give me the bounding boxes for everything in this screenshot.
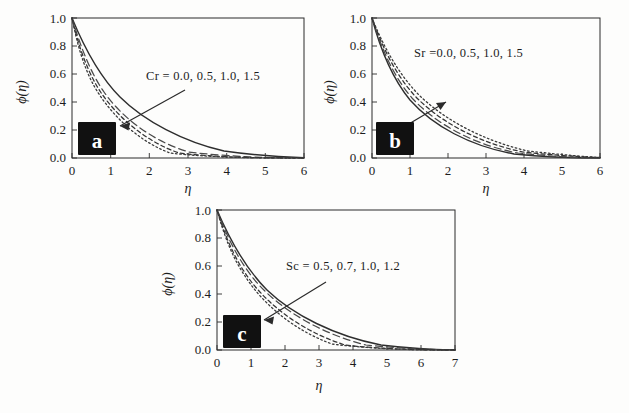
x-tick-label: 7	[452, 355, 459, 370]
panel-b-y-tick-labels: 0.0 0.2 0.4 0.6 0.8 1.0	[350, 11, 367, 165]
panel-c-y-axis-title: ϕ(η)	[160, 272, 176, 296]
x-tick-label: 4	[350, 355, 357, 370]
panel-a-y-axis-title: ϕ(η)	[14, 80, 30, 104]
panel-c-y-ticks	[217, 210, 222, 350]
y-tick-label: 0.4	[350, 94, 367, 109]
y-tick-label: 0.8	[195, 230, 211, 245]
x-tick-label: 5	[262, 163, 269, 178]
panel-a-x-tick-labels: 0 1 2 3 4 5 6	[69, 163, 308, 178]
panel-c-y-tick-labels: 0.0 0.2 0.4 0.6 0.8 1.0	[195, 203, 212, 357]
y-tick-label: 0.0	[50, 150, 66, 165]
x-tick-label: 6	[597, 163, 604, 178]
y-tick-label: 0.4	[195, 286, 212, 301]
panel-a: a Cr = 0.0, 0.5, 1.0, 1.5 0 1 2 3 4 5 6 …	[4, 2, 316, 198]
x-tick-label: 1	[248, 355, 255, 370]
y-tick-label: 0.0	[195, 342, 211, 357]
x-tick-label: 5	[559, 163, 566, 178]
x-tick-label: 4	[223, 163, 230, 178]
y-tick-label: 1.0	[350, 11, 366, 26]
x-tick-label: 2	[282, 355, 289, 370]
x-tick-label: 4	[521, 163, 528, 178]
x-tick-label: 1	[107, 163, 114, 178]
panel-c-annotation: Sc = 0.5, 0.7, 1.0, 1.2	[286, 259, 400, 273]
panel-c: c Sc = 0.5, 0.7, 1.0, 1.2 0 1 2 3 4 5 6 …	[150, 198, 480, 410]
x-tick-label: 3	[185, 163, 192, 178]
x-tick-label: 3	[316, 355, 323, 370]
y-tick-label: 0.2	[50, 122, 66, 137]
x-tick-label: 6	[301, 163, 308, 178]
panel-a-letter: a	[92, 129, 103, 153]
panel-a-annotation: Cr = 0.0, 0.5, 1.0, 1.5	[146, 69, 260, 83]
x-tick-label: 0	[369, 163, 376, 178]
y-tick-label: 0.0	[350, 150, 366, 165]
panel-a-x-axis-title: η	[185, 181, 192, 196]
x-tick-label: 5	[384, 355, 391, 370]
y-tick-label: 0.8	[50, 38, 66, 53]
panel-a-letter-badge: a	[78, 122, 116, 155]
panel-b-y-axis-title: ϕ(η)	[322, 80, 338, 104]
y-tick-label: 0.8	[350, 38, 366, 53]
y-tick-label: 0.6	[50, 66, 67, 81]
panel-c-letter: c	[237, 322, 246, 346]
panel-c-x-axis-title: η	[316, 378, 323, 393]
y-tick-label: 1.0	[50, 11, 66, 26]
y-tick-label: 1.0	[195, 203, 211, 218]
panel-b-plot-area: b Sr =0.0, 0.5, 1.0, 1.5	[372, 18, 600, 158]
panel-c-letter-badge: c	[223, 315, 261, 348]
panel-c-plot-area: c Sc = 0.5, 0.7, 1.0, 1.2	[217, 210, 455, 350]
panel-b-x-tick-labels: 0 1 2 3 4 5 6	[369, 163, 604, 178]
panel-b-x-axis-title: η	[483, 181, 490, 196]
x-tick-label: 0	[69, 163, 76, 178]
x-tick-label: 2	[445, 163, 452, 178]
panel-c-direction-arrow	[264, 282, 326, 325]
x-tick-label: 1	[407, 163, 414, 178]
x-tick-label: 2	[146, 163, 153, 178]
panel-c-x-tick-labels: 0 1 2 3 4 5 6 7	[214, 355, 459, 370]
panel-a-plot-area: a Cr = 0.0, 0.5, 1.0, 1.5	[72, 18, 304, 158]
panel-b-letter-badge: b	[376, 122, 414, 155]
panel-b-annotation: Sr =0.0, 0.5, 1.0, 1.5	[414, 46, 523, 60]
panel-a-y-tick-labels: 0.0 0.2 0.4 0.6 0.8 1.0	[50, 11, 67, 165]
y-tick-label: 0.2	[195, 314, 211, 329]
panel-b: b Sr =0.0, 0.5, 1.0, 1.5 0 1 2 3 4 5 6 0…	[318, 2, 626, 198]
x-tick-label: 3	[483, 163, 490, 178]
panel-b-letter: b	[389, 129, 401, 153]
y-tick-label: 0.6	[195, 258, 212, 273]
y-tick-label: 0.4	[50, 94, 67, 109]
y-tick-label: 0.2	[350, 122, 366, 137]
x-tick-label: 6	[418, 355, 425, 370]
y-tick-label: 0.6	[350, 66, 367, 81]
figure-canvas: a Cr = 0.0, 0.5, 1.0, 1.5 0 1 2 3 4 5 6 …	[0, 0, 629, 413]
x-tick-label: 0	[214, 355, 221, 370]
